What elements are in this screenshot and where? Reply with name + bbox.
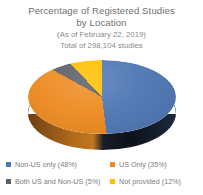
chart-title-line-2: by Location bbox=[0, 17, 203, 29]
chart-title-block: Percentage of Registered Studies by Loca… bbox=[0, 5, 203, 51]
chart-legend: Non-US only (48%) US Only (35%) Both US … bbox=[0, 156, 203, 194]
legend-item-both-us-and-non-us[interactable]: Both US and Non-US (5%) bbox=[6, 173, 110, 190]
pie-top-face bbox=[28, 60, 176, 134]
legend-label-both-us-and-non-us: Both US and Non-US (5%) bbox=[15, 177, 101, 186]
legend-label-non-us-only: Non-US only (48%) bbox=[15, 160, 77, 169]
legend-item-not-provided[interactable]: Not provided (12%) bbox=[110, 173, 181, 190]
legend-swatch-icon bbox=[110, 179, 115, 184]
chart-subtitle-total: Total of 298,104 studies bbox=[0, 41, 203, 52]
pie-chart-card: Percentage of Registered Studies by Loca… bbox=[0, 0, 203, 195]
pie-plot-area bbox=[0, 58, 203, 154]
pie-slices bbox=[28, 60, 176, 134]
legend-item-us-only[interactable]: US Only (35%) bbox=[110, 156, 167, 173]
legend-label-us-only: US Only (35%) bbox=[119, 160, 167, 169]
chart-title-line-1: Percentage of Registered Studies bbox=[0, 5, 203, 17]
pie-3d-stage bbox=[28, 60, 176, 152]
chart-subtitle-date: (As of February 22, 2019) bbox=[0, 28, 203, 41]
legend-label-not-provided: Not provided (12%) bbox=[119, 177, 181, 186]
legend-swatch-icon bbox=[110, 162, 115, 167]
legend-swatch-icon bbox=[6, 179, 11, 184]
legend-item-non-us-only[interactable]: Non-US only (48%) bbox=[6, 156, 110, 173]
legend-swatch-icon bbox=[6, 162, 11, 167]
